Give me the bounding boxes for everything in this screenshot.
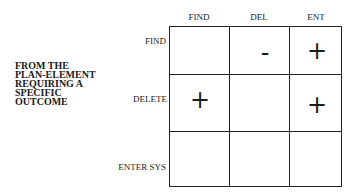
row-header-enter-sys: ENTER SYS	[46, 162, 166, 172]
matrix-grid: - + + +	[169, 26, 342, 187]
cell-find-ent: +	[297, 39, 337, 63]
grid-line	[170, 131, 341, 132]
cell-delete-find: +	[180, 88, 220, 112]
grid-line	[289, 27, 290, 186]
column-header-del: DEL	[229, 12, 289, 22]
grid-line	[170, 74, 341, 75]
column-header-ent: ENT	[286, 12, 346, 22]
row-header-find: FIND	[46, 36, 166, 46]
row-header-delete: DELETE	[47, 94, 167, 104]
cell-delete-ent: +	[297, 93, 337, 117]
cell-find-del: -	[245, 41, 285, 65]
grid-line	[229, 27, 230, 186]
column-header-find: FIND	[169, 12, 229, 22]
